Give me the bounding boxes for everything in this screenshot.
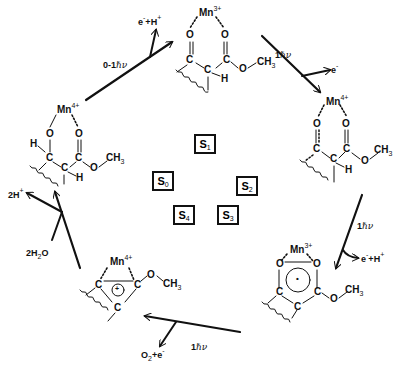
bottom-right-structure-bonds xyxy=(262,254,347,322)
left-methyl: CH3 xyxy=(106,153,124,163)
top-atom-c-center: C xyxy=(204,65,211,75)
s0-s1-photon-label: 0-1ℏν xyxy=(103,61,127,70)
bottom-left-atom-o-ester: O xyxy=(147,270,155,280)
state-box-s4: S4 xyxy=(173,205,195,225)
left-mn-label: Mn4+ xyxy=(57,105,79,115)
s1-s2-released-label: e- xyxy=(331,66,338,75)
diagram-graphics xyxy=(0,0,401,369)
s-state-cycle-diagram: Mn3+ O O C C C H O CH3 Mn4+ O O C C C H … xyxy=(0,0,401,369)
right-atom-h: H xyxy=(345,165,352,175)
right-atom-o-right: O xyxy=(342,119,350,129)
bottom-right-atom-c-bottom: C xyxy=(294,302,301,312)
s4-s0-input-label: 2H2O xyxy=(26,249,48,258)
s1-s2-photon-label: 1ℏν xyxy=(275,51,291,60)
right-atom-c-left: C xyxy=(313,144,320,154)
bottom-right-atom-o-ester: O xyxy=(330,294,338,304)
state-box-s1: S1 xyxy=(194,134,216,154)
bottom-right-atom-c-right: C xyxy=(314,287,321,297)
left-atom-h-bottom: H xyxy=(76,173,83,183)
bottom-right-atom-o-left: O xyxy=(276,259,284,269)
bottom-right-atom-o-right: O xyxy=(313,259,321,269)
left-atom-o-right: O xyxy=(75,129,83,139)
s3-s4-released-label: O2+e- xyxy=(141,351,165,360)
bottom-right-atom-c-left: C xyxy=(276,287,283,297)
right-atom-o-ester: O xyxy=(361,156,369,166)
top-atom-o-ester: O xyxy=(239,64,247,74)
s2-s3-photon-label: 1ℏν xyxy=(357,222,373,231)
left-atom-c-center: C xyxy=(61,163,68,173)
state-box-s3: S3 xyxy=(217,205,239,225)
top-atom-c-left: C xyxy=(186,55,193,65)
right-structure-bonds xyxy=(300,105,378,182)
left-atom-c-right: C xyxy=(75,153,82,163)
right-mn-label: Mn4+ xyxy=(326,97,348,107)
state-box-s2: S2 xyxy=(236,176,258,196)
right-methyl: CH3 xyxy=(374,145,392,155)
s4-s0-released-label: 2H+ xyxy=(8,191,24,200)
bottom-left-cation-mark: + xyxy=(115,285,119,292)
top-methyl: CH3 xyxy=(257,57,275,67)
left-atom-h-top: H xyxy=(30,139,37,149)
s0-s1-released-label: e-+H+ xyxy=(138,18,161,27)
top-atom-o-right: O xyxy=(221,30,229,40)
bottom-left-atom-c-bottom: C xyxy=(114,303,121,313)
right-atom-c-right: C xyxy=(343,144,350,154)
left-atom-c-left: C xyxy=(46,153,53,163)
left-structure-bonds xyxy=(30,115,107,186)
bottom-left-methyl: CH3 xyxy=(163,279,181,289)
bottom-right-methyl: CH3 xyxy=(345,285,363,295)
top-atom-c-right: C xyxy=(223,55,230,65)
right-atom-o-left: O xyxy=(313,119,321,129)
right-atom-c-center: C xyxy=(330,154,337,164)
bottom-right-radical-mark: • xyxy=(296,275,299,283)
top-atom-h: H xyxy=(221,74,228,84)
bottom-left-atom-c-left: C xyxy=(95,280,102,290)
top-atom-o-left: O xyxy=(186,30,194,40)
bottom-right-mn-label: Mn3+ xyxy=(290,245,312,255)
state-box-s0: S0 xyxy=(152,171,174,191)
arrow-s2-to-s3 xyxy=(336,195,362,268)
s3-s4-photon-label: 1ℏν xyxy=(191,343,207,352)
top-mn-label: Mn3+ xyxy=(199,8,221,18)
left-atom-o-ester: O xyxy=(90,163,98,173)
bottom-left-atom-c-right: C xyxy=(134,280,141,290)
arrow-s0-to-s1 xyxy=(86,30,172,100)
bottom-left-mn-label: Mn4+ xyxy=(110,257,132,267)
left-atom-o-left: O xyxy=(46,129,54,139)
s2-s3-released-label: e-+H+ xyxy=(361,255,384,264)
